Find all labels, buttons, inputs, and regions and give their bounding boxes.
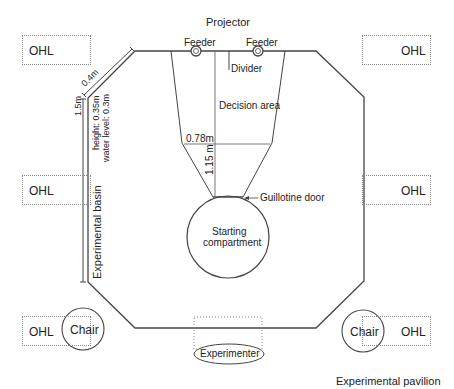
length-label: 1.15 m	[205, 144, 215, 175]
decision-area-label: Decision area	[219, 101, 280, 111]
divider-label: Divider	[231, 64, 262, 74]
projector-label: Projector	[206, 17, 250, 28]
experimental-basin-label: Experimental basin	[92, 185, 103, 279]
ohl-label: OHL	[29, 184, 54, 198]
water-level-label: water level: 0.3m	[102, 94, 111, 162]
guillotine-label: Guillotine door	[260, 193, 324, 203]
starting-compartment-label: Starting	[212, 227, 246, 237]
feeder-label: Feeder	[246, 38, 278, 48]
side-length-label: 1.5m	[74, 96, 83, 116]
ohl-label: OHL	[29, 325, 54, 339]
ohl-label: OHL	[29, 44, 54, 58]
chair-label: Chair	[350, 325, 379, 339]
experimenter-label: Experimenter	[200, 349, 259, 359]
starting-compartment-label: compartment	[203, 238, 261, 248]
width-label: 0.78m	[186, 134, 214, 144]
chair-label: Chair	[70, 323, 99, 337]
height-label: height: 0.35m	[92, 95, 101, 150]
pavilion-title: Experimental pavilion	[336, 376, 441, 387]
experimental-basin-outline	[88, 51, 364, 328]
ohl-label: OHL	[401, 325, 426, 339]
decision-area-outline	[171, 51, 213, 197]
feeder-label: Feeder	[184, 38, 216, 48]
ohl-label: OHL	[401, 184, 426, 198]
ohl-label: OHL	[401, 44, 426, 58]
